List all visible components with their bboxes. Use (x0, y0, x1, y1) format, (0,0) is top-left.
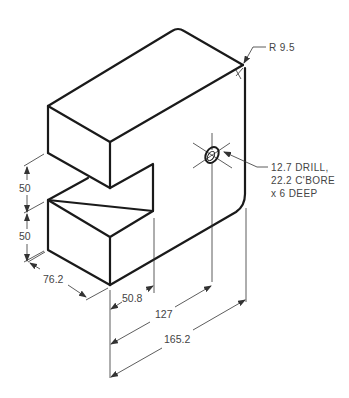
dim-overall-length: 165.2 (164, 333, 190, 345)
overall-length-dimension: 165.2 (111, 300, 245, 377)
slot-depth-dimension: 50.8 (111, 286, 153, 309)
dim-depth: 76.2 (43, 273, 64, 285)
radius-label: R 9.5 (269, 42, 295, 53)
counterbore-hole (193, 133, 232, 168)
hole-note-line3: x 6 DEEP (271, 188, 318, 199)
dim-slot-depth: 50.8 (122, 292, 143, 304)
dim-height-upper: 50 (19, 182, 31, 194)
isometric-drawing: R 9.5 12.7 DRILL, 22.2 C'BORE x 6 DEEP 5… (0, 0, 349, 398)
hole-note-line2: 22.2 C'BORE (271, 175, 335, 186)
hole-note-line1: 12.7 DRILL, (271, 162, 329, 173)
hole-note: 12.7 DRILL, 22.2 C'BORE x 6 DEEP (224, 152, 335, 199)
extension-lines (110, 163, 246, 378)
height-dimensions: 50 50 (19, 154, 44, 262)
dim-hole-location: 127 (155, 308, 173, 320)
dim-height-lower: 50 (19, 230, 31, 242)
